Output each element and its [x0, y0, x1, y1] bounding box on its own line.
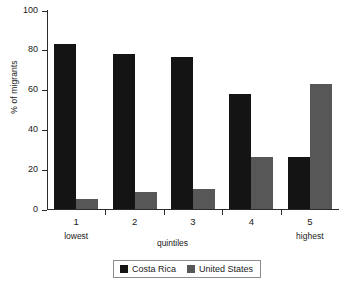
x-tick-label: 2: [132, 216, 137, 227]
bar: [113, 54, 135, 209]
y-tick: 100: [42, 11, 47, 12]
y-tick-label: 60: [28, 84, 38, 94]
bar: [76, 199, 98, 209]
y-tick: 0: [42, 210, 47, 211]
bar: [54, 44, 76, 209]
legend-label: Costa Rica: [132, 264, 176, 274]
x-tick: [281, 210, 282, 215]
legend-entry: Costa Rica: [120, 264, 176, 274]
x-axis-line: [47, 209, 339, 210]
legend-label: United States: [199, 264, 253, 274]
x-tick-label: 5: [307, 216, 312, 227]
x-tick-label: 4: [249, 216, 254, 227]
bar-group: [113, 10, 157, 209]
x-tick: [164, 210, 165, 215]
y-axis-line: [47, 10, 48, 210]
legend-swatch: [187, 265, 195, 273]
y-tick-label: 0: [33, 204, 38, 214]
bar-group: [54, 10, 98, 209]
bar: [229, 94, 251, 209]
y-tick: 20: [42, 170, 47, 171]
chart-legend: Costa RicaUnited States: [113, 260, 261, 278]
bar: [171, 57, 193, 209]
x-tick-label: 1: [74, 216, 79, 227]
x-tick-label: 3: [190, 216, 195, 227]
y-tick-label: 40: [28, 124, 38, 134]
y-tick: 40: [42, 130, 47, 131]
bar: [135, 192, 157, 209]
y-tick-label: 80: [28, 44, 38, 54]
y-tick: 60: [42, 90, 47, 91]
bar: [288, 157, 310, 209]
bar-group: [288, 10, 332, 209]
bar-group: [171, 10, 215, 209]
y-tick-label: 100: [23, 5, 38, 15]
bar: [251, 157, 273, 209]
y-axis-title: % of migrants: [9, 37, 19, 137]
y-tick-label: 20: [28, 164, 38, 174]
bar-chart-figure: % of migrants 020406080100 1lowest2345hi…: [0, 0, 345, 287]
x-axis-title: quintiles: [0, 238, 345, 248]
bar: [193, 189, 215, 209]
bar-group: [229, 10, 273, 209]
x-tick: [105, 210, 106, 215]
legend-entry: United States: [187, 264, 253, 274]
x-tick: [222, 210, 223, 215]
legend-swatch: [120, 265, 128, 273]
bar: [310, 84, 332, 209]
plot-area: 020406080100 1lowest2345highest: [47, 10, 339, 210]
y-tick: 80: [42, 50, 47, 51]
